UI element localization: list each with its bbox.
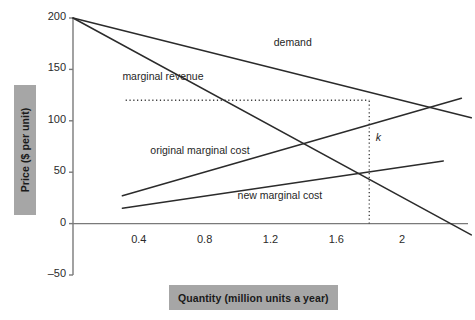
curve-label-new-marginal-cost: new marginal cost: [238, 189, 323, 201]
y-tick-label-200: 200: [28, 10, 66, 22]
curve-label-original-marginal-cost: original marginal cost: [150, 144, 249, 156]
curve-label-marginal-revenue: marginal revenue: [122, 70, 203, 82]
curve-demand: [73, 18, 471, 118]
x-tick-label-1p2: 1.2: [246, 233, 296, 245]
curve-new-marginal-cost: [122, 161, 443, 208]
y-tick-label-neg50: –50: [28, 267, 66, 279]
curve-marginal-revenue: [73, 18, 471, 235]
x-tick-label-1p6: 1.6: [311, 233, 361, 245]
y-tick-label-150: 150: [28, 61, 66, 73]
y-tick-label-0: 0: [28, 216, 66, 228]
x-tick-label-2: 2: [377, 233, 427, 245]
annotation-label-k: k: [376, 131, 381, 143]
curve-label-demand: demand: [274, 36, 312, 48]
y-tick-label-50: 50: [28, 164, 66, 176]
x-tick-label-0p8: 0.8: [180, 233, 230, 245]
chart-figure: Price ($ per unit) Quantity (million uni…: [0, 0, 475, 320]
x-tick-label-0p4: 0.4: [114, 233, 164, 245]
plot-area: [0, 0, 475, 320]
y-tick-label-100: 100: [28, 113, 66, 125]
